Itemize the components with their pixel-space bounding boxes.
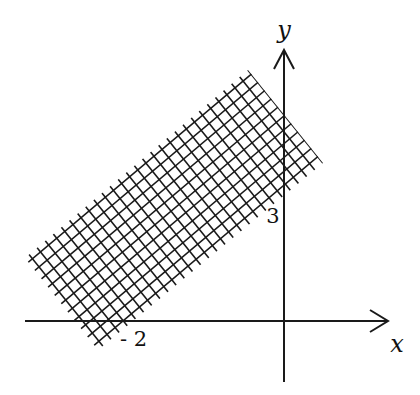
hatch-line [40,94,294,308]
hatch-line [46,102,300,316]
hatch-line [26,78,280,292]
hatch-line [13,61,267,275]
coordinate-diagram: x y - 2 3 [0,0,420,395]
y-axis: y [274,16,294,382]
cross-hatching [6,48,346,374]
x-axis-label: x [390,330,404,358]
y-intercept-label: 3 [266,204,279,228]
x-intercept-label: - 2 [120,327,147,351]
hatch-line [33,86,287,300]
hatch-line [66,127,320,341]
y-axis-label: y [276,16,291,44]
shaded-region [6,48,346,374]
hatch-line [20,69,274,283]
hatch-line [73,135,327,349]
hatch-line [6,53,260,267]
x-axis: x [25,310,404,358]
hatch-line [80,144,334,358]
